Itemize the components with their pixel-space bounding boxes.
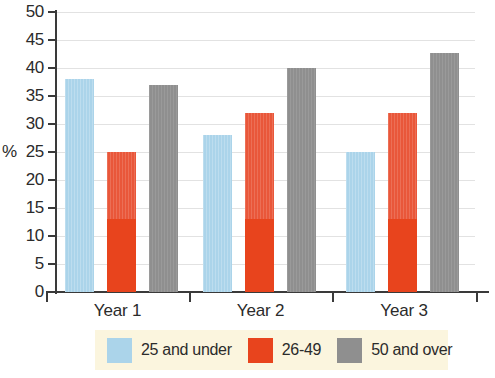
gridline [57,40,475,41]
legend-label: 50 and over [371,342,452,358]
legend-item-1[interactable]: 25 and under [107,338,232,363]
legend-swatch-icon [248,338,273,363]
bar-chart-figure: % 50454035302520151050 Year 1Year 2Year … [0,0,495,378]
bar-upper-tone [107,152,136,219]
y-tick-label: 20 [0,171,44,188]
y-tick-mark [48,263,57,265]
bar-year-3-series-2 [388,113,417,292]
y-tick-mark [48,39,57,41]
bar-year-1-series-3 [149,85,178,292]
y-tick-label: 10 [0,227,44,244]
y-tick-mark [48,291,57,293]
bar-year-3-series-1 [346,152,375,292]
bar-upper-tone [388,113,417,219]
legend-swatch-icon [107,338,132,363]
y-tick-mark [48,123,57,125]
chart-legend: 25 and under26-4950 and over [95,330,448,370]
legend-swatch-icon [337,338,362,363]
clipped-chart-title [100,0,460,6]
y-tick-label: 25 [0,143,44,160]
legend-item-2[interactable]: 26-49 [248,338,321,363]
x-tick-label-3: Year 3 [334,301,474,320]
y-tick-label: 5 [0,255,44,272]
bar-year-3-series-3 [430,53,459,292]
gridline [57,96,475,97]
y-tick-label: 45 [0,31,44,48]
y-tick-label: 50 [0,3,44,20]
y-tick-mark [48,95,57,97]
y-tick-mark [48,11,57,13]
x-tick-mark [476,292,478,302]
y-tick-label: 35 [0,87,44,104]
legend-item-3[interactable]: 50 and over [337,338,452,363]
bar-year-2-series-3 [287,68,316,292]
bar-year-2-series-1 [203,135,232,292]
y-tick-mark [48,235,57,237]
bar-year-1-series-1 [65,79,94,292]
bar-upper-tone [245,113,274,219]
y-tick-mark [48,179,57,181]
x-tick-label-2: Year 2 [191,301,331,320]
bar-year-2-series-2 [245,113,274,292]
y-tick-label: 15 [0,199,44,216]
legend-label: 25 and under [141,342,232,358]
legend-label: 26-49 [282,342,321,358]
gridline [57,12,475,13]
y-tick-label: 0 [0,283,44,300]
gridline [57,68,475,69]
plot-area [57,12,475,292]
y-tick-label: 30 [0,115,44,132]
y-tick-mark [48,151,57,153]
y-tick-mark [48,67,57,69]
y-tick-label: 40 [0,59,44,76]
x-tick-label-1: Year 1 [48,301,188,320]
y-tick-mark [48,207,57,209]
bar-year-1-series-2 [107,152,136,292]
